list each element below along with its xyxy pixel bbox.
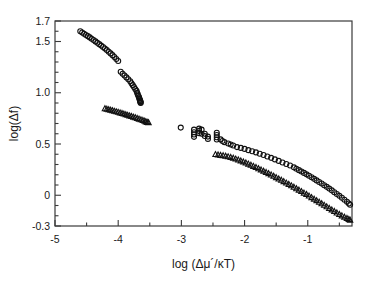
y-tick-label: 1.7 bbox=[35, 15, 50, 27]
x-axis-tick-labels: -5-4-3-2-1 bbox=[50, 233, 312, 245]
series-circles-branch-2 bbox=[118, 69, 143, 105]
x-axis-label: log (Δμ´/κT) bbox=[172, 257, 235, 271]
circle-marker bbox=[178, 125, 183, 130]
data-markers bbox=[78, 29, 353, 222]
x-axis-ticks bbox=[55, 220, 339, 226]
plot-canvas: -5-4-3-2-1 1.71.51.00.50-0.3 log (Δμ´/κT… bbox=[0, 0, 371, 282]
x-tick-label: -3 bbox=[177, 233, 186, 245]
y-axis-tick-labels: 1.71.51.00.50-0.3 bbox=[32, 15, 50, 232]
y-tick-label: 0 bbox=[44, 189, 50, 201]
y-tick-label: 0.5 bbox=[35, 138, 50, 150]
x-tick-label: -1 bbox=[303, 233, 312, 245]
x-tick-label: -4 bbox=[114, 233, 123, 245]
x-tick-label: -5 bbox=[50, 233, 59, 245]
series-triangles-main bbox=[213, 152, 353, 223]
y-tick-label: -0.3 bbox=[32, 220, 50, 232]
scatter-plot-figure: -5-4-3-2-1 1.71.51.00.50-0.3 log (Δμ´/κT… bbox=[0, 0, 371, 282]
series-circles-branch-1 bbox=[78, 29, 121, 64]
y-tick-label: 1.0 bbox=[35, 86, 50, 98]
y-axis-ticks bbox=[55, 21, 61, 226]
x-tick-label: -2 bbox=[240, 233, 249, 245]
series-circles-main bbox=[178, 125, 352, 207]
series-triangles-branch-1 bbox=[102, 106, 151, 125]
y-axis-label: log(Δf) bbox=[7, 106, 21, 141]
y-tick-label: 1.5 bbox=[35, 35, 50, 47]
